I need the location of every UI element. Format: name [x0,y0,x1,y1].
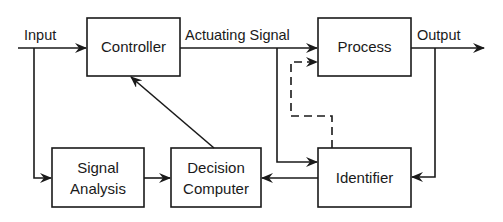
process-label: Process [337,38,391,55]
identifier-label: Identifier [336,169,394,186]
adaptive-control-diagram: Controller Process Signal Analysis Decis… [0,0,503,222]
actuating-signal-label: Actuating Signal [185,27,290,43]
controller-block: Controller [87,18,180,76]
signal-analysis-label-2: Analysis [70,180,126,197]
input-to-signal-analysis-arrow [34,48,51,178]
decision-to-controller-arrow [131,77,214,148]
signal-analysis-block: Signal Analysis [52,148,144,207]
signal-analysis-label-1: Signal [77,159,119,176]
controller-label: Controller [101,38,166,55]
decision-computer-label-1: Decision [187,159,245,176]
identifier-block: Identifier [318,148,411,207]
actuating-to-identifier-arrow [277,48,317,162]
input-label: Input [24,27,56,43]
process-block: Process [318,18,411,76]
output-to-identifier-arrow [412,48,435,177]
decision-computer-label-2: Computer [183,180,249,197]
output-label: Output [417,27,461,43]
decision-computer-block: Decision Computer [171,148,261,207]
